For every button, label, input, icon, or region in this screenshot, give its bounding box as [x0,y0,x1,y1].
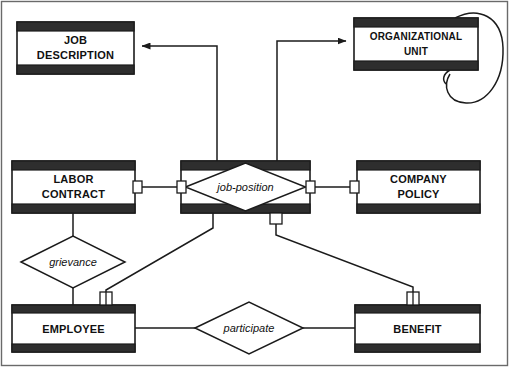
entity-job-description-line2: DESCRIPTION [37,49,114,61]
entity-job-description-line1: JOB [64,34,87,46]
connector-job-position-to-employee [106,213,213,301]
er-diagram-canvas: JOB DESCRIPTION ORGANIZATIONAL UNIT LABO… [0,0,510,368]
entity-organizational-unit-line1: ORGANIZATIONAL [370,31,463,42]
entity-job-description[interactable]: JOB DESCRIPTION [17,22,134,74]
relationship-grievance-label: grievance [49,256,97,268]
entity-employee-line1: EMPLOYEE [42,323,105,335]
entity-organizational-unit[interactable]: ORGANIZATIONAL UNIT [354,18,478,70]
entity-labor-contract-line2: CONTRACT [42,188,105,200]
connector-job-position-to-benefit [276,218,413,301]
connector-job-position-to-organizational-unit [277,41,346,161]
cardinality-marker [306,181,315,193]
associative-entity-job-position-label: job-position [215,181,273,193]
entity-benefit[interactable]: BENEFIT [355,292,480,352]
cardinality-marker [177,181,186,193]
entity-company-policy[interactable]: COMPANY POLICY [350,161,480,213]
associative-entity-job-position[interactable]: job-position [177,161,315,224]
entity-benefit-line1: BENEFIT [393,323,442,335]
relationship-grievance[interactable]: grievance [21,236,125,288]
entity-labor-contract[interactable]: LABOR CONTRACT [12,161,142,213]
cardinality-marker [133,181,142,193]
er-diagram-svg: JOB DESCRIPTION ORGANIZATIONAL UNIT LABO… [0,0,510,368]
entity-labor-contract-line1: LABOR [53,173,93,185]
cardinality-marker [350,181,359,193]
entity-organizational-unit-line2: UNIT [404,46,428,57]
entity-company-policy-line1: COMPANY [390,173,447,185]
relationship-participate[interactable]: participate [195,302,303,354]
entity-company-policy-line2: POLICY [397,188,440,200]
connector-job-position-to-job-description [142,46,217,161]
relationship-participate-label: participate [223,322,275,334]
cardinality-marker [270,213,282,224]
